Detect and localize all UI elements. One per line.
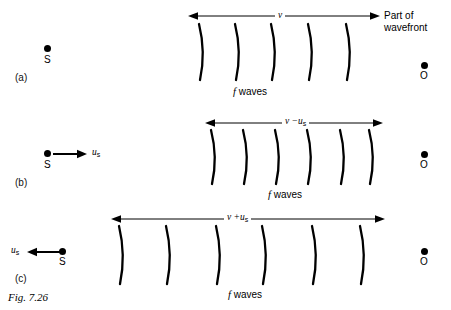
doppler-wavefront-figure: S (a) v f waves Part of wavefront bbox=[0, 0, 451, 310]
panel-c: S us (c) v +us f bbox=[0, 205, 451, 310]
panel-a: S (a) v f waves Part of wavefront bbox=[0, 0, 451, 105]
observer-letter-a: O bbox=[420, 70, 428, 81]
wavefront-group-b bbox=[0, 128, 451, 186]
waves-label-c: f waves bbox=[228, 289, 262, 300]
speed-label-a-value: v bbox=[278, 10, 282, 20]
wavefront-note-line1: Part of bbox=[384, 10, 427, 22]
observer-letter-c: O bbox=[420, 256, 428, 267]
waves-label-b: f waves bbox=[268, 189, 302, 200]
waves-label-a: f waves bbox=[233, 86, 267, 97]
waves-label-b-text: waves bbox=[271, 189, 302, 200]
wavefront-group-c bbox=[0, 224, 451, 286]
wavefront-note: Part of wavefront bbox=[384, 10, 427, 33]
speed-label-c-value: v bbox=[227, 212, 231, 222]
speed-label-b-value: v bbox=[285, 116, 289, 126]
waves-label-c-text: waves bbox=[231, 289, 262, 300]
observer-letter-b: O bbox=[420, 159, 428, 170]
speed-label-b-sub: s bbox=[303, 120, 307, 127]
observer-dot-a bbox=[421, 62, 428, 69]
speed-label-a: v bbox=[275, 10, 285, 20]
wavefront-note-line2: wavefront bbox=[384, 22, 427, 34]
observer-dot-c bbox=[421, 248, 428, 255]
figure-caption: Fig. 7.26 bbox=[8, 291, 48, 303]
speed-label-c-sub: s bbox=[245, 216, 249, 223]
waves-label-a-text: waves bbox=[236, 86, 267, 97]
panel-b: S us (b) v −us f bbox=[0, 105, 451, 205]
observer-dot-b bbox=[421, 151, 428, 158]
speed-label-c: v +us bbox=[224, 212, 251, 223]
speed-label-b: v −us bbox=[282, 116, 309, 127]
